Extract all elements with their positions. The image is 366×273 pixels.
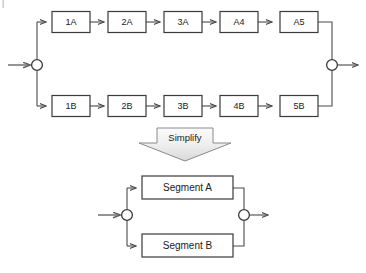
scan-artifact <box>3 0 4 8</box>
block-5b: 5B <box>280 96 318 117</box>
simplify-label: Simplify <box>168 132 202 143</box>
block-a4: A4 <box>220 12 258 33</box>
block-1b: 1B <box>52 96 90 117</box>
block-3b-label: 3B <box>177 101 188 111</box>
block-2a: 2A <box>108 12 146 33</box>
block-segment-a: Segment A <box>142 176 233 199</box>
simplify-arrow: Simplify <box>139 128 231 161</box>
top-input-junction-node <box>32 60 43 71</box>
block-diagram: 1A 2A 3A A4 A5 1B 2B 3B <box>0 0 366 273</box>
block-3a: 3A <box>164 12 202 33</box>
block-a5: A5 <box>280 12 318 33</box>
block-segment-b: Segment B <box>142 234 233 257</box>
top-output-junction-node <box>327 60 338 71</box>
block-3b: 3B <box>164 96 202 117</box>
block-4b-label: 4B <box>233 101 244 111</box>
edge-5b-to-output-node <box>318 70 332 106</box>
diagram-canvas: 1A 2A 3A A4 A5 1B 2B 3B <box>0 0 366 273</box>
block-1b-label: 1B <box>65 101 76 111</box>
block-2a-label: 2A <box>121 17 132 27</box>
block-segment-a-label: Segment A <box>163 182 212 193</box>
bottom-output-junction-node <box>239 210 250 221</box>
edge-segment-b-to-output-node <box>233 220 244 246</box>
edge-a5-to-output-node <box>318 22 332 60</box>
block-a5-label: A5 <box>293 17 304 27</box>
block-1a: 1A <box>52 12 90 33</box>
block-1a-label: 1A <box>65 17 76 27</box>
block-a4-label: A4 <box>233 17 244 27</box>
block-3a-label: 3A <box>177 17 188 27</box>
block-2b: 2B <box>108 96 146 117</box>
bottom-input-junction-node <box>122 210 133 221</box>
block-segment-b-label: Segment B <box>163 240 213 251</box>
block-4b: 4B <box>220 96 258 117</box>
block-2b-label: 2B <box>121 101 132 111</box>
edge-segment-a-to-output-node <box>233 188 244 210</box>
block-5b-label: 5B <box>293 101 304 111</box>
